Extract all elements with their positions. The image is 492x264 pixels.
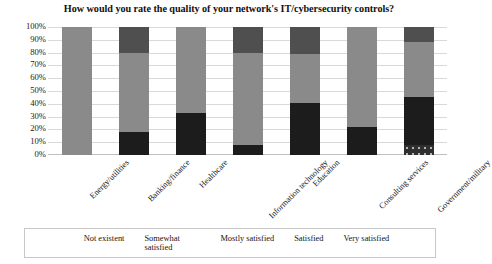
bar-segment-very-satisfied[interactable] xyxy=(119,27,149,53)
x-axis-label-slot: Energy/utilities xyxy=(48,155,105,213)
chart-title: How would you rate the quality of your n… xyxy=(0,3,458,14)
legend-swatch-icon xyxy=(133,235,141,243)
y-axis-tick-label: 90% xyxy=(2,35,46,44)
legend-swatch-icon xyxy=(332,235,340,243)
bar-segment-somewhat-satisfied[interactable] xyxy=(347,127,377,155)
bar-stack[interactable] xyxy=(176,27,206,155)
legend-label: Somewhat satisfied xyxy=(144,234,200,253)
bar-group[interactable] xyxy=(162,27,219,155)
y-axis-tick-label: 60% xyxy=(2,73,46,82)
bar-segment-satisfied[interactable] xyxy=(176,27,206,113)
legend: Not existentSomewhat satisfiedMostly sat… xyxy=(24,228,436,258)
bar-segment-somewhat-satisfied[interactable] xyxy=(404,97,434,144)
legend-swatch-icon xyxy=(209,235,217,243)
legend-swatch-icon xyxy=(73,235,81,243)
y-axis-tick-label: 30% xyxy=(2,112,46,121)
y-axis-tick-label: 70% xyxy=(2,60,46,69)
bar-segment-satisfied[interactable] xyxy=(119,53,149,132)
bar-group[interactable] xyxy=(333,27,390,155)
legend-label: Satisfied xyxy=(294,234,323,243)
bar-segment-very-satisfied[interactable] xyxy=(404,27,434,42)
bar-segment-not-existent[interactable] xyxy=(404,145,434,155)
legend-item-very-satisfied[interactable]: Very satisfied xyxy=(332,234,389,243)
bar-group[interactable] xyxy=(219,27,276,155)
legend-item-satisfied[interactable]: Satisfied xyxy=(283,234,323,243)
legend-item-not-existent[interactable]: Not existent xyxy=(73,234,125,243)
y-axis-tick-label: 50% xyxy=(2,86,46,95)
y-axis: 100%90%80%70%60%50%40%30%20%10%0% xyxy=(0,27,46,155)
bar-stack[interactable] xyxy=(290,27,320,155)
bar-stack[interactable] xyxy=(404,27,434,155)
legend-label: Not existent xyxy=(84,234,125,243)
bar-segment-very-satisfied[interactable] xyxy=(290,27,320,54)
bar-stack[interactable] xyxy=(347,27,377,155)
bar-stack[interactable] xyxy=(119,27,149,155)
plot-area xyxy=(48,27,447,155)
bar-segment-somewhat-satisfied[interactable] xyxy=(119,132,149,155)
bar-segment-very-satisfied[interactable] xyxy=(233,27,263,53)
y-axis-tick-label: 40% xyxy=(2,99,46,108)
bar-group[interactable] xyxy=(105,27,162,155)
bar-stack[interactable] xyxy=(233,27,263,155)
x-axis-label-slot: Education xyxy=(276,155,333,213)
bar-group[interactable] xyxy=(48,27,105,155)
legend-item-somewhat-satisfied[interactable]: Somewhat satisfied xyxy=(133,234,200,253)
y-axis-tick-label: 0% xyxy=(2,150,46,159)
y-axis-tick-label: 100% xyxy=(2,22,46,31)
x-axis-label-slot: Healthcare xyxy=(162,155,219,213)
y-axis-tick-label: 20% xyxy=(2,124,46,133)
bar-segment-somewhat-satisfied[interactable] xyxy=(233,145,263,155)
bar-segment-satisfied[interactable] xyxy=(62,27,92,155)
legend-swatch-icon xyxy=(283,235,291,243)
x-axis-label-slot: Information technology xyxy=(219,155,276,213)
legend-item-mostly-satisfied[interactable]: Mostly satisfied xyxy=(209,234,274,243)
x-axis-tick-label: Government/military xyxy=(435,158,491,214)
legend-label: Very satisfied xyxy=(343,234,389,243)
legend-items: Not existentSomewhat satisfiedMostly sat… xyxy=(25,229,437,257)
x-axis-label-slot: Consulting services xyxy=(333,155,390,213)
x-axis-label-slot: Government/military xyxy=(390,155,447,213)
bar-segment-satisfied[interactable] xyxy=(290,54,320,103)
bar-segment-somewhat-satisfied[interactable] xyxy=(176,113,206,155)
bar-segment-somewhat-satisfied[interactable] xyxy=(290,103,320,155)
bar-segment-satisfied[interactable] xyxy=(347,27,377,127)
x-axis-category-labels: Energy/utilitiesBanking/financeHealthcar… xyxy=(48,155,447,213)
bar-segment-satisfied[interactable] xyxy=(404,42,434,97)
bar-group[interactable] xyxy=(390,27,447,155)
bar-segment-satisfied[interactable] xyxy=(233,53,263,145)
bar-stack[interactable] xyxy=(62,27,92,155)
x-axis-label-slot: Banking/finance xyxy=(105,155,162,213)
legend-label: Mostly satisfied xyxy=(220,234,274,243)
y-axis-tick-label: 10% xyxy=(2,137,46,146)
y-axis-tick-label: 80% xyxy=(2,48,46,57)
bar-group[interactable] xyxy=(276,27,333,155)
